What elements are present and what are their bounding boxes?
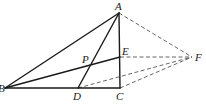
segment-CF [120, 57, 192, 88]
label-A: A [114, 0, 122, 12]
label-P: P [81, 53, 89, 65]
segment-AD [78, 13, 119, 88]
geometry-diagram: A B C D E F P [0, 0, 206, 110]
label-F: F [194, 51, 202, 63]
solid-lines [5, 13, 120, 88]
segment-AC [119, 13, 120, 88]
dashed-lines [78, 13, 192, 88]
segment-DF [78, 57, 192, 88]
segment-BE [5, 57, 120, 88]
point-labels: A B C D E F P [0, 0, 202, 102]
label-B: B [0, 82, 5, 94]
segment-AB [5, 13, 119, 88]
label-D: D [72, 90, 81, 102]
label-E: E [121, 45, 129, 57]
segment-AF [119, 13, 192, 57]
label-C: C [116, 90, 124, 102]
